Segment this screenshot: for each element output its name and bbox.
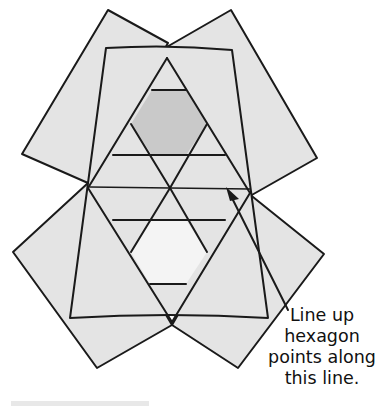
footer-bar — [11, 401, 149, 406]
caption-line-1: Line up — [262, 305, 380, 326]
caption-line-3: points along — [262, 347, 380, 368]
instruction-caption: Line up hexagon points along this line. — [262, 305, 380, 389]
caption-line-4: this line. — [262, 368, 380, 389]
caption-line-2: hexagon — [262, 326, 380, 347]
